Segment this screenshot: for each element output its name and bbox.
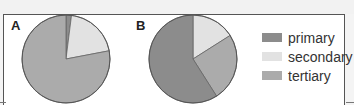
- left-tick: [0, 102, 6, 103]
- legend-item-primary: primary: [262, 28, 353, 47]
- panel-label-b: B: [136, 18, 145, 33]
- legend-label: secondary: [288, 49, 353, 65]
- top-strip: [0, 0, 354, 14]
- panel-label-a: A: [11, 18, 20, 33]
- legend-label: primary: [288, 30, 335, 46]
- legend: primary secondary tertiary: [262, 28, 353, 85]
- legend-item-secondary: secondary: [262, 47, 353, 66]
- legend-item-tertiary: tertiary: [262, 66, 353, 85]
- legend-label: tertiary: [288, 68, 331, 84]
- pie-chart-b: [147, 13, 239, 105]
- swatch-tertiary: [262, 71, 282, 80]
- swatch-primary: [262, 33, 282, 42]
- pie-chart-a: [20, 13, 112, 105]
- right-tick: [346, 102, 354, 103]
- swatch-secondary: [262, 52, 282, 61]
